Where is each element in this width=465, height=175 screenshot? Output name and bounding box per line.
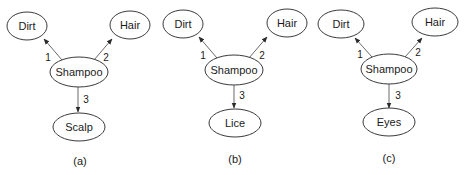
edge-label-left: 1 [200,50,206,61]
node-hair: Hair [412,8,458,36]
edge-label-left: 1 [357,49,363,60]
edge-label-bottom: 3 [83,94,89,105]
svg-text:Shampoo: Shampoo [55,66,102,78]
panel-b: 1 2 3 Dirt Hair Shampoo Lice (b) [163,9,307,165]
svg-text:Dirt: Dirt [174,18,191,30]
node-hair: Hair [110,11,150,39]
node-dirt: Dirt [163,10,203,38]
node-dirt: Dirt [318,10,364,38]
edge-label-bottom: 3 [395,90,401,101]
panel-a: 1 2 3 Dirt Hair Shampoo Scalp (a) [7,11,150,167]
edge-label-right: 2 [415,47,421,58]
edge-label-right: 2 [103,52,109,63]
svg-text:Dirt: Dirt [332,18,349,30]
node-lice: Lice [209,109,261,137]
svg-text:Eyes: Eyes [377,116,402,128]
edge-label-right: 2 [259,50,265,61]
node-hair: Hair [267,9,307,37]
svg-text:Hair: Hair [425,16,446,28]
svg-text:Dirt: Dirt [18,20,35,32]
panel-caption: (a) [73,155,86,167]
svg-text:Shampoo: Shampoo [210,64,257,76]
panel-caption: (c) [383,152,396,164]
svg-text:Shampoo: Shampoo [365,63,412,75]
svg-text:Lice: Lice [225,117,245,129]
svg-text:Scalp: Scalp [65,121,93,133]
node-shampoo: Shampoo [50,57,108,87]
svg-text:Hair: Hair [277,17,298,29]
node-dirt: Dirt [7,12,47,40]
node-eyes: Eyes [363,108,415,136]
panel-caption: (b) [228,153,241,165]
node-scalp: Scalp [53,113,105,141]
node-shampoo: Shampoo [361,54,417,84]
svg-text:Hair: Hair [120,19,141,31]
diagram-canvas: 1 2 3 Dirt Hair Shampoo Scalp (a) [0,0,465,175]
node-shampoo: Shampoo [205,55,263,85]
edge-label-left: 1 [45,52,51,63]
edge-label-bottom: 3 [239,90,245,101]
panel-c: 1 2 3 Dirt Hair Shampoo Eyes (c) [318,8,458,164]
